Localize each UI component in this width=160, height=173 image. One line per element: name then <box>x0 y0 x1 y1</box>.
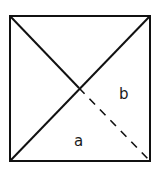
label-b: b <box>119 85 129 103</box>
diagonal-center-to-bottom-right-dashed <box>79 88 150 161</box>
diagonal-top-left-to-center <box>10 16 79 88</box>
square-diagram: a b <box>0 0 160 173</box>
label-a: a <box>74 132 83 150</box>
